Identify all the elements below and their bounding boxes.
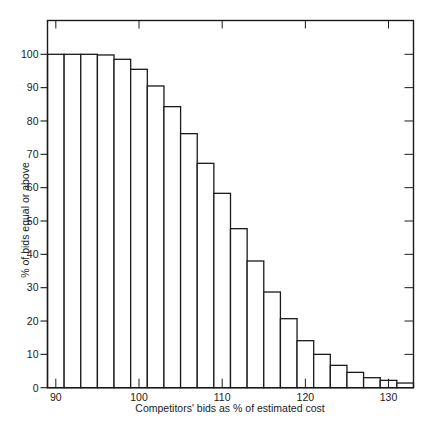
- histogram-bar: [330, 365, 347, 387]
- y-axis-title: % of bids equal or above: [19, 162, 31, 278]
- histogram-bar: [280, 319, 297, 388]
- y-tick-label: 80: [27, 115, 39, 127]
- histogram-bar: [264, 292, 281, 388]
- y-tick-label: 100: [21, 48, 39, 60]
- histogram-bar: [64, 54, 81, 387]
- histogram-bar: [181, 134, 198, 388]
- histogram-chart: 0102030405060708090100 90100110120130 Co…: [0, 0, 432, 426]
- y-tick-label: 70: [27, 148, 39, 160]
- histogram-bar: [97, 55, 114, 388]
- histogram-bar: [397, 383, 414, 388]
- x-tick-label: 110: [214, 391, 231, 403]
- histogram-bar: [347, 372, 364, 387]
- y-tick-label: 20: [27, 315, 39, 327]
- y-tick-label: 90: [27, 81, 39, 93]
- x-tick-label: 90: [50, 391, 62, 403]
- y-tick-label: 0: [33, 382, 39, 394]
- histogram-bar: [147, 86, 164, 388]
- histogram-bar: [247, 261, 264, 388]
- histogram-bar: [114, 59, 131, 387]
- x-tick-label: 120: [297, 391, 315, 403]
- histogram-bar: [48, 54, 65, 387]
- histogram-bar: [364, 378, 381, 388]
- histogram-bar: [197, 163, 214, 387]
- y-tick-label: 10: [27, 348, 39, 360]
- histogram-bar: [164, 107, 181, 388]
- x-tick-label: 130: [380, 391, 398, 403]
- histogram-bar: [214, 193, 231, 387]
- y-tick-label: 30: [27, 281, 39, 293]
- histogram-bar: [81, 54, 98, 387]
- x-tick-label: 100: [130, 391, 148, 403]
- histogram-bar: [131, 69, 148, 387]
- bars-group: [48, 54, 414, 387]
- histogram-bar: [314, 354, 331, 387]
- x-axis-title: Competitors' bids as % of estimated cost: [135, 402, 324, 414]
- histogram-bar: [231, 229, 248, 388]
